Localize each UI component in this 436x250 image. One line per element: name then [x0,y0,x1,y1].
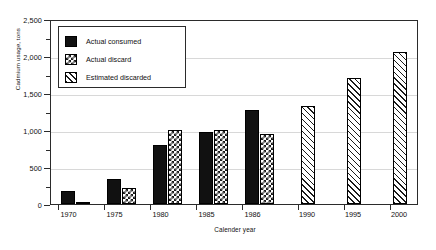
bar-actual-discard [168,130,182,204]
y-axis-minor-tick [46,113,50,114]
legend-label: Actual consumed [86,37,141,46]
x-axis-tick-label: 1970 [60,210,76,219]
bar-actual-discard [122,188,136,204]
y-axis-tick-label: 500 [30,164,42,173]
bar-actual-consumed [199,132,213,204]
y-axis-tick-label: 1,000 [23,127,42,136]
legend: Actual consumed Actual discard Estimated… [58,26,186,88]
y-axis-minor-tick [46,150,50,151]
y-axis-minor-tick [46,187,50,188]
y-axis-minor-tick [46,39,50,40]
y-axis-tick-label: 0 [38,201,42,210]
gridline [51,95,417,96]
bar-actual-consumed [245,110,259,204]
x-axis-tick [150,205,151,210]
x-axis-tick-label: 1995 [345,210,361,219]
legend-label: Estimated discarded [86,73,151,82]
legend-item: Actual discard [65,50,185,68]
y-axis-tick [44,20,50,21]
y-axis-tick-label: 2,500 [23,16,42,25]
x-axis-tick-label: 1975 [106,210,122,219]
legend-item: Estimated discarded [65,68,185,86]
x-axis-title: Calender year [0,226,436,233]
x-axis-tick-label: 1986 [244,210,260,219]
legend-swatch-estimated-discarded [65,72,77,83]
x-axis-tick-label: 2000 [391,210,407,219]
legend-swatch-actual-consumed [65,36,77,47]
y-axis-tick [44,94,50,95]
bar-actual-discard [214,130,228,204]
x-axis-tick-label: 1980 [152,210,168,219]
legend-item: Actual consumed [65,32,185,50]
x-axis-tick [104,205,105,210]
y-axis-tick [44,131,50,132]
y-axis-tick [44,205,50,206]
y-axis-tick-label: 1,500 [23,90,42,99]
bar-chart: Cadmium usage, tons Actual consumed Actu… [0,0,436,250]
x-axis-tick [196,205,197,210]
y-axis-tick-label: 2,000 [23,53,42,62]
y-axis-title: Cadmium usage, tons [14,0,21,62]
legend-label: Actual discard [86,55,131,64]
y-axis-minor-tick [46,76,50,77]
y-axis-tick [44,57,50,58]
x-axis-tick [242,205,243,210]
gridline [51,132,417,133]
bar-actual-discard [76,202,90,204]
y-axis-title-text: Cadmium usage, tons [14,28,21,90]
y-axis-tick [44,168,50,169]
bar-estimated-discarded [301,106,315,204]
gridline [51,169,417,170]
x-axis-tick-label: 1985 [198,210,214,219]
bar-actual-consumed [153,145,167,204]
x-axis-tick-label: 1990 [299,210,315,219]
bar-actual-consumed [61,191,75,204]
bar-estimated-discarded [347,78,361,204]
bar-actual-discard [260,134,274,204]
legend-swatch-actual-discard [65,54,77,65]
bar-actual-consumed [107,179,121,204]
x-axis-tick [58,205,59,210]
bar-estimated-discarded [393,52,407,204]
